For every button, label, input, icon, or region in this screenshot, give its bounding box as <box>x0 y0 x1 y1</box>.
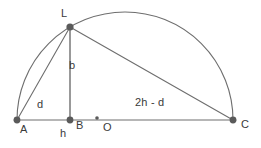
geometry-figure: L A B O C b d h 2h - d <box>0 0 261 148</box>
measure-label-b: b <box>69 60 75 71</box>
point-c <box>230 117 237 124</box>
point-label-l: L <box>61 8 67 19</box>
point-l <box>66 23 73 30</box>
point-label-c: C <box>241 119 249 130</box>
point-label-a: A <box>20 124 28 135</box>
measure-label-h: h <box>60 128 66 139</box>
semicircle-arc <box>17 12 233 120</box>
point-b <box>67 117 74 124</box>
geometry-canvas <box>0 0 261 148</box>
point-label-b: B <box>76 120 84 131</box>
measure-label-2h-minus-d: 2h - d <box>135 97 164 108</box>
measure-label-d: d <box>37 99 43 110</box>
segment-al <box>17 27 70 120</box>
point-o <box>95 116 99 120</box>
point-label-o: O <box>103 122 112 133</box>
